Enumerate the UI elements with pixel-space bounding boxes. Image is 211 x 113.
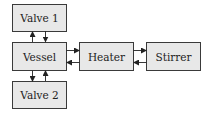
node-label: Heater xyxy=(88,51,126,63)
node-label: Valve 1 xyxy=(19,12,58,24)
node-valve-2: Valve 2 xyxy=(13,82,67,109)
node-valve-1: Valve 1 xyxy=(13,5,67,32)
node-label: Vessel xyxy=(22,51,57,63)
node-label: Valve 2 xyxy=(19,89,58,101)
diagram-canvas: Valve 1 Vessel Heater Stirrer Valve 2 xyxy=(0,0,211,113)
node-vessel: Vessel xyxy=(13,43,67,71)
node-stirrer: Stirrer xyxy=(147,43,201,71)
node-label: Stirrer xyxy=(155,51,192,63)
node-heater: Heater xyxy=(80,43,134,71)
